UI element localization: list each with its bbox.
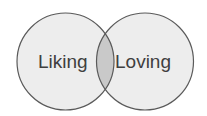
label-liking: Liking — [38, 51, 88, 72]
venn-diagram: Liking Loving — [0, 0, 207, 116]
label-loving: Loving — [115, 51, 171, 72]
